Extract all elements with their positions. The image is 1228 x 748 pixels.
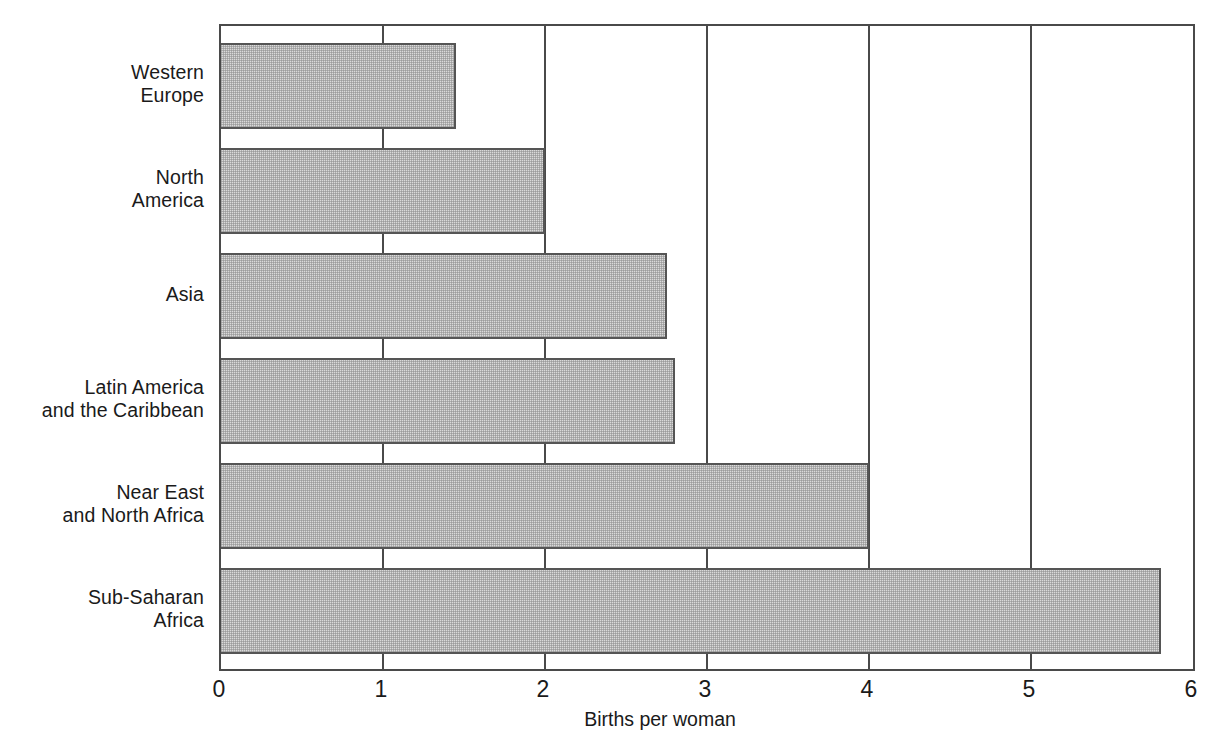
category-label-asia: Asia [0, 283, 204, 306]
bar-north-america [221, 148, 545, 234]
x-tick-5: 5 [999, 676, 1059, 703]
bar-sub-saharan-africa [221, 568, 1161, 654]
category-label-latin-america: Latin America and the Caribbean [0, 376, 204, 422]
x-tick-2: 2 [513, 676, 573, 703]
bar-latin-america [221, 358, 675, 444]
x-axis-title: Births per woman [0, 708, 1228, 731]
plot-area [219, 24, 1195, 671]
category-label-western-europe: Western Europe [0, 61, 204, 107]
bar-western-europe [221, 43, 456, 129]
bar-near-east [221, 463, 869, 549]
category-label-near-east: Near East and North Africa [0, 481, 204, 527]
x-tick-3: 3 [675, 676, 735, 703]
bar-asia [221, 253, 667, 339]
x-axis-title-text: Births per woman [584, 708, 736, 731]
x-tick-4: 4 [837, 676, 897, 703]
category-axis-labels: Western Europe North America Asia Latin … [0, 0, 204, 748]
x-tick-6: 6 [1161, 676, 1221, 703]
category-label-sub-saharan-africa: Sub-Saharan Africa [0, 586, 204, 632]
category-label-north-america: North America [0, 166, 204, 212]
bars-layer [221, 26, 1193, 669]
bar-chart: Western Europe North America Asia Latin … [0, 0, 1228, 748]
x-tick-0: 0 [189, 676, 249, 703]
x-tick-1: 1 [351, 676, 411, 703]
